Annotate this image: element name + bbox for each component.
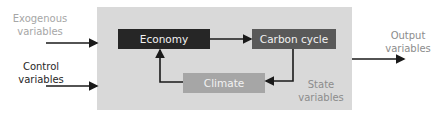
climate-to-economy-arrow: [160, 50, 183, 82]
carbon-to-climate-arrow: [266, 49, 293, 81]
arrows-layer: [0, 0, 440, 115]
